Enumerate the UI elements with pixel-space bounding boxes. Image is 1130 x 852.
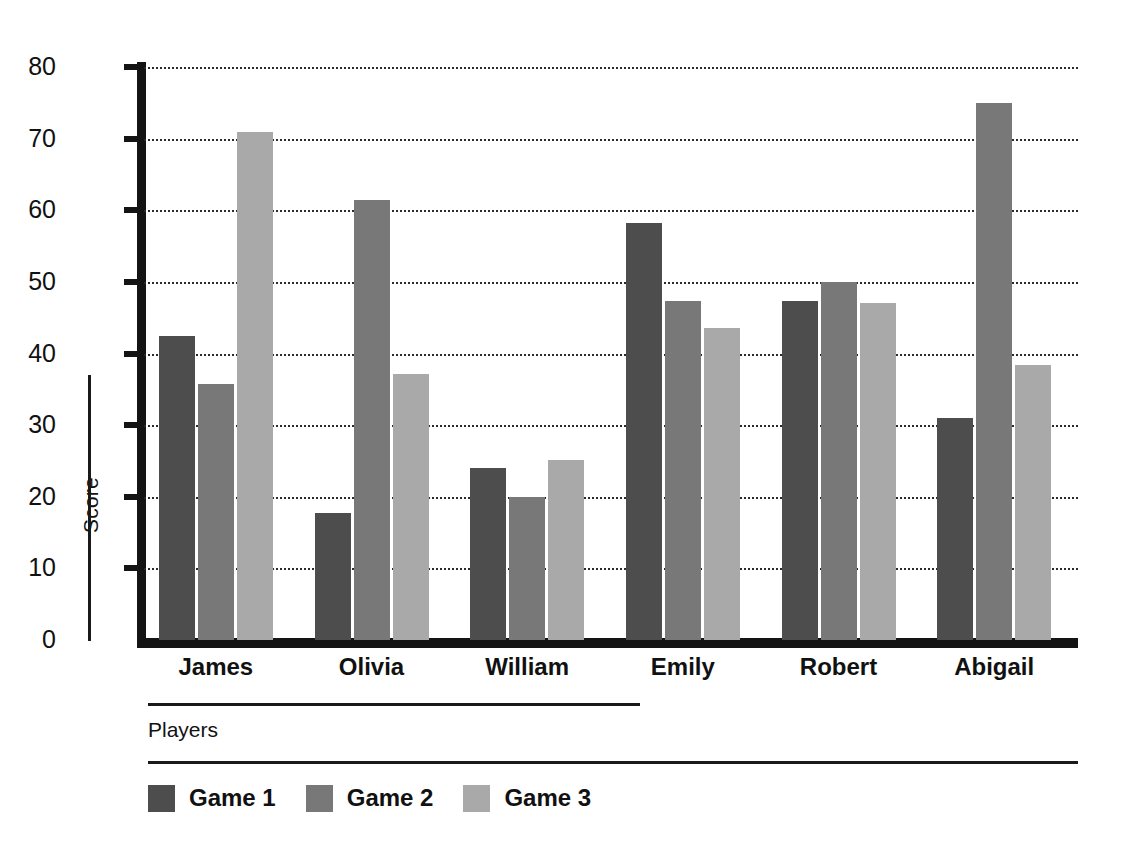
legend-label: Game 3 <box>504 784 591 812</box>
y-axis-label-rule <box>88 375 91 641</box>
bar-group <box>159 67 273 640</box>
bar[interactable] <box>937 418 973 640</box>
legend-rule <box>148 761 1078 764</box>
y-tick-mark <box>124 565 138 571</box>
y-tick-label: 30 <box>28 412 56 437</box>
bar[interactable] <box>470 468 506 640</box>
bar[interactable] <box>1015 365 1051 640</box>
bar-group <box>315 67 429 640</box>
legend: Game 1Game 2Game 3 <box>148 780 621 816</box>
bar[interactable] <box>198 384 234 640</box>
y-tick-label: 10 <box>28 555 56 580</box>
bar[interactable] <box>315 513 351 640</box>
bar[interactable] <box>548 460 584 640</box>
legend-swatch-icon <box>148 785 175 812</box>
x-tick-label: Abigail <box>916 653 1072 681</box>
bar[interactable] <box>393 374 429 640</box>
y-tick-mark <box>124 207 138 213</box>
bars-layer <box>144 67 1078 640</box>
y-tick-label: 50 <box>28 269 56 294</box>
x-tick-label: James <box>138 653 294 681</box>
y-tick-label: 20 <box>28 484 56 509</box>
bar[interactable] <box>860 303 896 640</box>
y-tick-label: 40 <box>28 341 56 366</box>
bar-group <box>626 67 740 640</box>
bar[interactable] <box>976 103 1012 640</box>
bar-group <box>937 67 1051 640</box>
y-tick-label: 70 <box>28 126 56 151</box>
bar[interactable] <box>821 282 857 640</box>
x-tick-label: William <box>449 653 605 681</box>
legend-swatch-icon <box>306 785 333 812</box>
x-axis-label-text: Players <box>148 718 218 742</box>
x-tick-label: Olivia <box>294 653 450 681</box>
x-tick-label: Robert <box>761 653 917 681</box>
bar[interactable] <box>354 200 390 640</box>
y-tick-label: 60 <box>28 197 56 222</box>
y-tick-mark <box>124 422 138 428</box>
chart-page: Score 01020304050607080 JamesOliviaWilli… <box>0 0 1130 852</box>
y-tick-label: 0 <box>42 627 56 652</box>
y-tick-mark <box>124 494 138 500</box>
y-tick-mark <box>124 279 138 285</box>
bar[interactable] <box>159 336 195 640</box>
legend-item[interactable]: Game 1 <box>148 784 276 812</box>
bar[interactable] <box>237 132 273 640</box>
legend-item[interactable]: Game 3 <box>463 784 591 812</box>
legend-label: Game 1 <box>189 784 276 812</box>
bar[interactable] <box>782 301 818 641</box>
y-tick-mark <box>124 351 138 357</box>
x-axis-label-rule <box>148 703 640 706</box>
legend-item[interactable]: Game 2 <box>306 784 434 812</box>
y-tick-label: 80 <box>28 54 56 79</box>
legend-label: Game 2 <box>347 784 434 812</box>
x-tick-label: Emily <box>605 653 761 681</box>
bar[interactable] <box>704 328 740 640</box>
bar-group <box>470 67 584 640</box>
y-tick-mark <box>124 136 138 142</box>
bar[interactable] <box>665 301 701 640</box>
bar-group <box>782 67 896 640</box>
bar[interactable] <box>509 497 545 640</box>
legend-swatch-icon <box>463 785 490 812</box>
y-tick-mark <box>124 64 138 70</box>
bar[interactable] <box>626 223 662 640</box>
